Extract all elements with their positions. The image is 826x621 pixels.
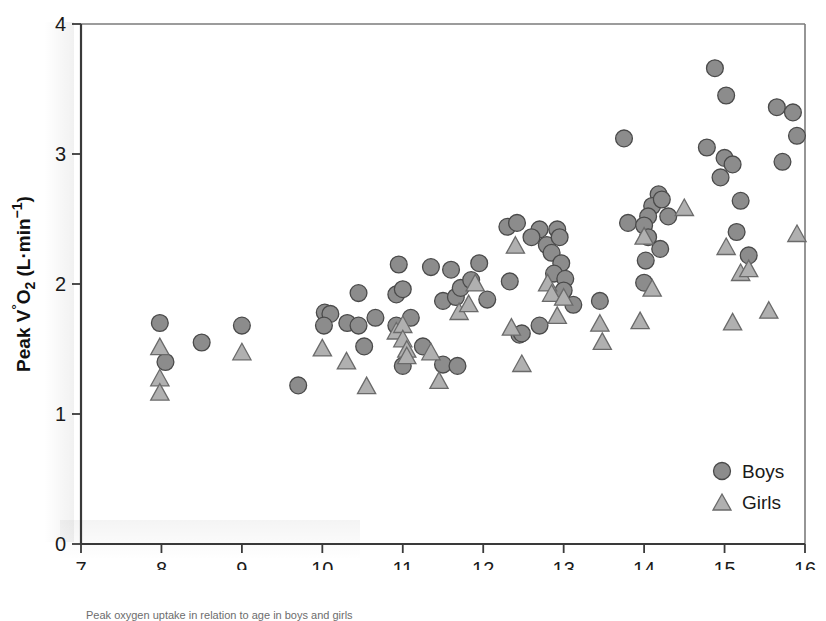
data-point-girls bbox=[593, 333, 611, 350]
data-point-boys bbox=[620, 215, 637, 232]
data-point-girls bbox=[506, 237, 524, 254]
data-point-girls bbox=[233, 343, 251, 360]
data-point-girls bbox=[313, 339, 331, 356]
data-point-girls bbox=[724, 313, 742, 330]
y-title-subscript: 2 bbox=[22, 282, 38, 290]
data-point-boys bbox=[443, 261, 460, 278]
y-title-units-close: ) bbox=[13, 196, 34, 202]
data-point-boys bbox=[193, 334, 210, 351]
data-point-boys bbox=[652, 241, 669, 258]
data-point-girls bbox=[675, 199, 693, 216]
y-tick-label: 4 bbox=[55, 13, 66, 35]
data-point-boys bbox=[728, 224, 745, 241]
data-point-girls bbox=[358, 377, 376, 394]
data-point-boys bbox=[712, 169, 729, 186]
data-point-boys bbox=[660, 208, 677, 225]
data-point-boys bbox=[471, 255, 488, 272]
x-tick-label: 12 bbox=[472, 558, 494, 570]
data-point-boys bbox=[151, 315, 168, 332]
data-point-girls bbox=[788, 225, 806, 242]
data-point-boys bbox=[367, 309, 384, 326]
y-title-v: V bbox=[13, 309, 34, 322]
data-point-girls bbox=[151, 338, 169, 355]
y-title-o: O bbox=[13, 290, 34, 305]
x-tick-label: 14 bbox=[633, 558, 655, 570]
data-point-boys bbox=[718, 87, 735, 104]
y-axis-title: Peak V°O2 (L·min−1) bbox=[9, 196, 38, 372]
data-point-boys bbox=[523, 229, 540, 246]
data-point-boys bbox=[768, 99, 785, 116]
svg-text:Peak V°O2 (L·min−1): Peak V°O2 (L·min−1) bbox=[9, 196, 38, 372]
data-point-boys bbox=[732, 192, 749, 209]
data-point-boys bbox=[501, 273, 518, 290]
x-tick-label: 8 bbox=[156, 558, 167, 570]
data-point-boys bbox=[449, 358, 466, 375]
x-tick-label: 9 bbox=[236, 558, 247, 570]
legend: Boys Girls bbox=[713, 461, 784, 513]
data-point-boys bbox=[233, 317, 250, 334]
data-point-boys bbox=[350, 317, 367, 334]
y-tick-label: 1 bbox=[55, 403, 66, 425]
x-tick-label: 7 bbox=[75, 558, 86, 570]
data-point-boys bbox=[350, 285, 367, 302]
legend-marker-girls bbox=[713, 494, 731, 510]
data-point-boys bbox=[616, 130, 633, 147]
data-point-boys bbox=[653, 191, 670, 208]
data-point-boys bbox=[707, 60, 724, 77]
data-point-girls bbox=[513, 355, 531, 372]
y-title-units-open: (L·min bbox=[13, 218, 34, 281]
figure-container: 01234 78910111213141516 Boys Girls Age (… bbox=[0, 0, 826, 621]
data-point-girls bbox=[631, 312, 649, 329]
legend-marker-boys bbox=[714, 463, 731, 480]
x-tick-label: 13 bbox=[553, 558, 575, 570]
data-point-boys bbox=[390, 256, 407, 273]
y-tick-label: 0 bbox=[55, 533, 66, 555]
x-tick-label: 11 bbox=[392, 558, 413, 570]
data-point-boys bbox=[591, 293, 608, 310]
y-tick-label: 3 bbox=[55, 143, 66, 165]
data-point-girls bbox=[548, 307, 566, 324]
x-axis-ticks: 78910111213141516 bbox=[75, 544, 816, 570]
data-point-boys bbox=[551, 229, 568, 246]
legend-label-boys: Boys bbox=[742, 461, 784, 482]
figure-caption: Peak oxygen uptake in relation to age in… bbox=[0, 609, 826, 621]
data-point-girls bbox=[337, 352, 355, 369]
data-point-boys bbox=[637, 252, 654, 269]
data-point-boys bbox=[157, 354, 174, 371]
x-tick-label: 16 bbox=[794, 558, 816, 570]
data-point-boys bbox=[789, 127, 806, 144]
data-point-boys bbox=[531, 317, 548, 334]
y-tick-label: 2 bbox=[55, 273, 66, 295]
data-point-boys bbox=[698, 139, 715, 156]
data-point-boys bbox=[356, 338, 373, 355]
data-point-boys bbox=[509, 215, 526, 232]
data-point-boys bbox=[316, 317, 333, 334]
data-point-girls bbox=[760, 302, 778, 319]
legend-label-girls: Girls bbox=[742, 492, 781, 513]
data-point-girls bbox=[430, 372, 448, 389]
y-axis-ticks: 01234 bbox=[55, 13, 81, 555]
data-point-boys bbox=[394, 281, 411, 298]
data-point-boys bbox=[290, 377, 307, 394]
data-point-boys bbox=[724, 156, 741, 173]
y-title-lead: Peak bbox=[13, 322, 34, 372]
plot-frame bbox=[81, 24, 805, 544]
scatter-plot: 01234 78910111213141516 Boys Girls Age (… bbox=[0, 0, 826, 570]
data-point-girls bbox=[591, 315, 609, 332]
y-title-units-exp: −1 bbox=[9, 202, 25, 218]
data-point-boys bbox=[423, 259, 440, 276]
data-points-boys bbox=[151, 60, 805, 394]
x-tick-label: 15 bbox=[713, 558, 735, 570]
x-tick-label: 10 bbox=[311, 558, 333, 570]
data-point-girls bbox=[717, 238, 735, 255]
data-point-boys bbox=[774, 153, 791, 170]
data-point-boys bbox=[785, 104, 802, 121]
data-point-boys bbox=[479, 291, 496, 308]
